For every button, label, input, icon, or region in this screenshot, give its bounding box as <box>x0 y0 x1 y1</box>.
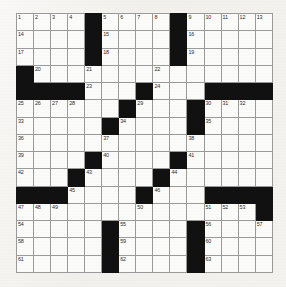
letter-square[interactable]: 40 <box>102 152 119 169</box>
letter-square[interactable] <box>85 255 102 272</box>
letter-square[interactable] <box>204 48 221 65</box>
letter-square[interactable] <box>221 169 238 186</box>
letter-square[interactable] <box>51 169 68 186</box>
letter-square[interactable]: 18 <box>102 48 119 65</box>
letter-square[interactable]: 1 <box>17 14 34 31</box>
letter-square[interactable] <box>68 31 85 48</box>
letter-square[interactable]: 62 <box>119 255 136 272</box>
crossword-grid[interactable]: 1234567891011121314151617181920212223242… <box>16 13 273 273</box>
letter-square[interactable] <box>119 65 136 82</box>
letter-square[interactable]: 38 <box>187 134 204 151</box>
letter-square[interactable]: 48 <box>34 203 51 220</box>
letter-square[interactable] <box>187 83 204 100</box>
letter-square[interactable] <box>255 65 272 82</box>
letter-square[interactable] <box>119 83 136 100</box>
letter-square[interactable]: 31 <box>221 100 238 117</box>
letter-square[interactable]: 45 <box>68 186 85 203</box>
letter-square[interactable] <box>204 152 221 169</box>
letter-square[interactable] <box>238 134 255 151</box>
letter-square[interactable]: 60 <box>204 238 221 255</box>
letter-square[interactable] <box>136 152 153 169</box>
letter-square[interactable] <box>153 203 170 220</box>
letter-square[interactable] <box>136 169 153 186</box>
letter-square[interactable] <box>170 117 187 134</box>
letter-square[interactable]: 28 <box>68 100 85 117</box>
letter-square[interactable] <box>238 65 255 82</box>
letter-square[interactable] <box>153 117 170 134</box>
letter-square[interactable]: 10 <box>204 14 221 31</box>
letter-square[interactable]: 41 <box>187 152 204 169</box>
letter-square[interactable]: 52 <box>221 203 238 220</box>
letter-square[interactable] <box>68 117 85 134</box>
letter-square[interactable] <box>204 65 221 82</box>
letter-square[interactable]: 29 <box>136 100 153 117</box>
letter-square[interactable]: 24 <box>153 83 170 100</box>
letter-square[interactable] <box>51 31 68 48</box>
letter-square[interactable] <box>136 134 153 151</box>
letter-square[interactable] <box>68 152 85 169</box>
letter-square[interactable]: 22 <box>153 65 170 82</box>
letter-square[interactable] <box>170 100 187 117</box>
letter-square[interactable] <box>255 134 272 151</box>
letter-square[interactable]: 42 <box>17 169 34 186</box>
letter-square[interactable] <box>68 48 85 65</box>
letter-square[interactable] <box>51 152 68 169</box>
letter-square[interactable] <box>255 152 272 169</box>
letter-square[interactable] <box>68 65 85 82</box>
letter-square[interactable] <box>34 255 51 272</box>
letter-square[interactable] <box>119 31 136 48</box>
letter-square[interactable] <box>68 221 85 238</box>
letter-square[interactable]: 46 <box>153 186 170 203</box>
letter-square[interactable] <box>153 31 170 48</box>
letter-square[interactable]: 35 <box>204 117 221 134</box>
letter-square[interactable] <box>51 238 68 255</box>
letter-square[interactable] <box>34 117 51 134</box>
letter-square[interactable] <box>170 186 187 203</box>
letter-square[interactable] <box>102 83 119 100</box>
letter-square[interactable] <box>119 134 136 151</box>
letter-square[interactable]: 53 <box>238 203 255 220</box>
letter-square[interactable] <box>153 255 170 272</box>
letter-square[interactable]: 20 <box>34 65 51 82</box>
letter-square[interactable] <box>85 221 102 238</box>
letter-square[interactable] <box>221 117 238 134</box>
letter-square[interactable]: 23 <box>85 83 102 100</box>
letter-square[interactable] <box>85 186 102 203</box>
letter-square[interactable]: 47 <box>17 203 34 220</box>
letter-square[interactable] <box>136 31 153 48</box>
letter-square[interactable]: 50 <box>136 203 153 220</box>
letter-square[interactable] <box>204 169 221 186</box>
letter-square[interactable]: 55 <box>119 221 136 238</box>
letter-square[interactable] <box>255 100 272 117</box>
letter-square[interactable] <box>85 203 102 220</box>
letter-square[interactable] <box>136 255 153 272</box>
letter-square[interactable] <box>238 169 255 186</box>
letter-square[interactable] <box>119 186 136 203</box>
letter-square[interactable] <box>51 134 68 151</box>
letter-square[interactable]: 32 <box>238 100 255 117</box>
letter-square[interactable]: 30 <box>204 100 221 117</box>
letter-square[interactable] <box>34 31 51 48</box>
letter-square[interactable]: 33 <box>17 117 34 134</box>
letter-square[interactable] <box>153 221 170 238</box>
letter-square[interactable] <box>238 152 255 169</box>
letter-square[interactable] <box>221 134 238 151</box>
letter-square[interactable] <box>255 117 272 134</box>
letter-square[interactable] <box>221 221 238 238</box>
letter-square[interactable] <box>51 65 68 82</box>
letter-square[interactable]: 57 <box>255 221 272 238</box>
letter-square[interactable] <box>51 117 68 134</box>
letter-square[interactable] <box>136 221 153 238</box>
letter-square[interactable] <box>187 203 204 220</box>
letter-square[interactable] <box>51 221 68 238</box>
letter-square[interactable]: 39 <box>17 152 34 169</box>
letter-square[interactable]: 16 <box>187 31 204 48</box>
letter-square[interactable] <box>238 117 255 134</box>
letter-square[interactable]: 58 <box>17 238 34 255</box>
letter-square[interactable] <box>85 117 102 134</box>
letter-square[interactable] <box>34 169 51 186</box>
letter-square[interactable]: 27 <box>51 100 68 117</box>
letter-square[interactable]: 17 <box>17 48 34 65</box>
letter-square[interactable] <box>119 203 136 220</box>
letter-square[interactable] <box>170 134 187 151</box>
